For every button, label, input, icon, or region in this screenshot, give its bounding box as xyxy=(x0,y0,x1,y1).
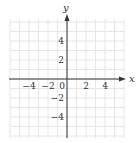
y-tick-label: −2 xyxy=(51,93,64,103)
x-tick-label: 0 xyxy=(59,81,65,91)
y-tick-label: 4 xyxy=(58,36,64,46)
x-tick-label: 4 xyxy=(102,81,108,91)
axes xyxy=(9,14,126,138)
x-axis-arrow-icon xyxy=(119,77,126,82)
y-tick-label: 2 xyxy=(58,55,64,65)
x-tick-label: 2 xyxy=(83,81,89,91)
x-tick-label: −4 xyxy=(22,81,36,91)
y-axis-label: y xyxy=(62,2,69,13)
y-tick-label: −4 xyxy=(51,112,65,122)
x-tick-label: −2 xyxy=(41,81,54,91)
y-axis-arrow-icon xyxy=(65,14,70,21)
x-axis-label: x xyxy=(129,73,135,84)
coordinate-plane: x y −4−2024 42−2−4 xyxy=(0,0,139,143)
